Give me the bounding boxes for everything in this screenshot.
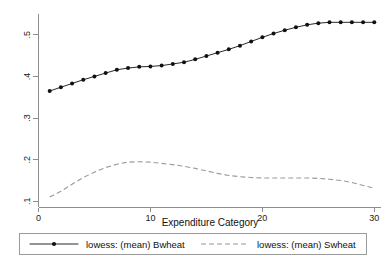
series-line-bwheat (50, 22, 375, 91)
data-point-bwheat (272, 32, 276, 36)
data-point-bwheat (126, 66, 130, 70)
data-point-bwheat (92, 74, 96, 78)
data-point-bwheat (81, 78, 85, 82)
data-point-bwheat (171, 62, 175, 66)
data-point-bwheat (104, 71, 108, 75)
data-point-bwheat (238, 44, 242, 48)
data-point-bwheat (115, 68, 119, 72)
data-point-bwheat (339, 20, 343, 24)
chart-container: .1.2.3.4.5 0102030 Expenditure Category … (0, 0, 386, 260)
data-point-bwheat (316, 21, 320, 25)
data-point-bwheat (182, 60, 186, 64)
data-point-bwheat (193, 57, 197, 61)
data-point-bwheat (70, 81, 74, 85)
y-tick-label: .2 (22, 156, 32, 164)
data-point-bwheat (350, 20, 354, 24)
lowess-line-chart: .1.2.3.4.5 0102030 Expenditure Category … (0, 0, 386, 260)
data-point-bwheat (160, 64, 164, 68)
data-point-bwheat (137, 65, 141, 69)
y-tick-label: .5 (22, 31, 32, 39)
data-point-bwheat (216, 51, 220, 55)
legend-label-bwheat: lowess: (mean) Bwheat (86, 239, 185, 250)
x-tick-label: 20 (257, 213, 267, 223)
data-point-bwheat (148, 64, 152, 68)
y-tick-label: .3 (22, 114, 32, 122)
data-point-bwheat (59, 85, 63, 89)
x-tick-label: 0 (36, 213, 41, 223)
data-point-bwheat (372, 20, 376, 24)
data-point-bwheat (305, 23, 309, 27)
legend: lowess: (mean) Bwheat lowess: (mean) Swh… (20, 234, 367, 255)
legend-label-swheat: lowess: (mean) Swheat (257, 239, 356, 250)
x-tick-label: 30 (369, 213, 379, 223)
y-tick-label: .4 (22, 73, 32, 81)
data-point-bwheat (204, 54, 208, 58)
x-axis-title: Expenditure Category (162, 217, 259, 228)
series-layer (48, 20, 377, 197)
axes-group (39, 14, 382, 208)
series-markers-bwheat (48, 20, 377, 93)
data-point-bwheat (283, 28, 287, 32)
legend-swatch-marker-bwheat (52, 242, 56, 246)
data-point-bwheat (328, 20, 332, 24)
data-point-bwheat (260, 35, 264, 39)
data-point-bwheat (361, 20, 365, 24)
data-point-bwheat (48, 89, 52, 93)
y-tick-label: .1 (22, 198, 32, 206)
data-point-bwheat (294, 25, 298, 29)
data-point-bwheat (227, 47, 231, 51)
y-axis-ticks: .1.2.3.4.5 (22, 31, 39, 205)
data-point-bwheat (249, 39, 253, 43)
series-line-swheat (50, 162, 375, 197)
x-tick-label: 10 (145, 213, 155, 223)
